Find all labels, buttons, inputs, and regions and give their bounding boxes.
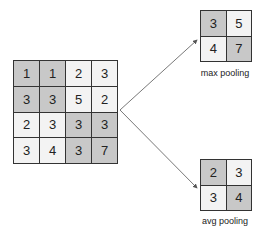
max-pool-grid: 3 5 4 7: [200, 10, 252, 62]
input-cell: 4: [40, 138, 65, 163]
input-cell: 3: [66, 138, 91, 163]
input-grid: 1 1 2 3 3 3 5 2 2 3 3 3 3 4 3 7: [13, 60, 118, 164]
avg-pool-cell: 3: [201, 186, 226, 211]
max-pool-cell: 4: [201, 37, 226, 62]
input-cell: 1: [14, 61, 39, 86]
avg-pool-cell: 2: [201, 160, 226, 185]
input-cell: 3: [40, 113, 65, 138]
input-cell: 7: [92, 138, 117, 163]
input-cell: 2: [14, 113, 39, 138]
input-cell: 5: [66, 87, 91, 112]
max-pool-cell: 3: [201, 11, 226, 36]
avg-pool-grid: 2 3 3 4: [200, 159, 252, 211]
avg-pool-label: avg pooling: [185, 216, 265, 226]
input-cell: 2: [66, 61, 91, 86]
input-cell: 3: [66, 113, 91, 138]
input-cell: 3: [14, 87, 39, 112]
input-cell: 1: [40, 61, 65, 86]
input-cell: 3: [92, 113, 117, 138]
max-pool-cell: 7: [227, 37, 252, 62]
max-pool-label: max pooling: [185, 68, 265, 78]
input-cell: 2: [92, 87, 117, 112]
avg-pool-cell: 4: [227, 186, 252, 211]
input-cell: 3: [92, 61, 117, 86]
arrow-to-avg-pool: [120, 110, 197, 188]
input-cell: 3: [14, 138, 39, 163]
max-pool-cell: 5: [227, 11, 252, 36]
input-cell: 3: [40, 87, 65, 112]
avg-pool-cell: 3: [227, 160, 252, 185]
